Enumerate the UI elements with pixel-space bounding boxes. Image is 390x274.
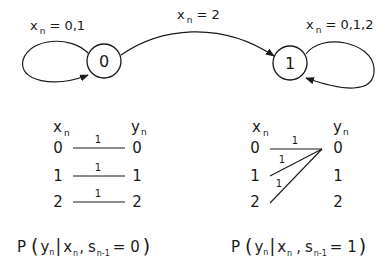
channel-right: xn yn 0 1 2 0 1 2 1 1 1 P(yn|xn,sn-1= 1) [231, 118, 366, 258]
channel-right-output-1: 1 [333, 167, 343, 185]
transition-arrow-0-to-1 [121, 32, 274, 56]
channel-left-output-2: 2 [132, 193, 142, 211]
channel-right-prob-0: 1 [292, 135, 298, 146]
channel-left-caption: P(yn|xn,sn-1= 0) [17, 235, 150, 258]
state-node-1: 1 [273, 46, 307, 80]
transition-label-0-to-1: xn= 2 [177, 7, 220, 25]
state-label-0: 0 [99, 52, 109, 71]
state-label-1: 1 [285, 54, 295, 73]
channel-left-output-0: 0 [132, 139, 142, 157]
channel-left-prob-0: 1 [95, 134, 101, 145]
channel-right-input-1: 1 [250, 167, 260, 185]
self-loop-label-0: xn= 0,1 [30, 18, 85, 36]
channel-left-input-1: 1 [53, 167, 63, 185]
channel-right-input-0: 0 [250, 139, 260, 157]
channel-right-header-x: xn [252, 118, 269, 138]
channel-left-header-x: xn [53, 118, 70, 138]
channel-right-edge-1-0 [270, 149, 322, 176]
channel-right-input-2: 2 [250, 193, 260, 211]
channel-left-prob-1: 1 [95, 162, 101, 173]
channel-right-output-2: 2 [333, 193, 343, 211]
channel-left-input-2: 2 [53, 193, 63, 211]
self-loop-label-1: xn= 0,1,2 [306, 17, 374, 35]
channel-right-edge-2-0 [270, 149, 322, 203]
channel-left: xn yn 0 1 2 0 1 2 1 1 1 P(yn|xn,sn-1= 0) [17, 118, 150, 258]
channel-left-prob-2: 1 [95, 188, 101, 199]
channel-right-caption: P(yn|xn,sn-1= 1) [231, 235, 366, 258]
channel-right-header-y: yn [333, 118, 349, 137]
channel-right-prob-2: 1 [276, 178, 282, 189]
channel-right-output-0: 0 [333, 139, 343, 157]
state-node-0: 0 [87, 44, 121, 78]
channel-left-input-0: 0 [53, 139, 63, 157]
channel-left-output-1: 1 [132, 167, 142, 185]
channel-left-header-y: yn [131, 118, 147, 137]
channel-right-prob-1: 1 [279, 154, 285, 165]
self-loop-arrow-0 [23, 41, 88, 82]
self-loop-arrow-1 [306, 42, 374, 88]
state-diagram: 0 1 xn= 0,1 xn= 2 xn= 0,1,2 xn yn 0 1 2 … [0, 0, 390, 274]
